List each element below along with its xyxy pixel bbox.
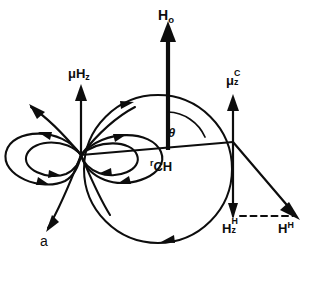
loop-arrow-right-outer-bottom (117, 176, 131, 184)
label-h0: Ho (158, 8, 174, 22)
label-mu-z-c-base: μ (226, 73, 234, 88)
label-mu-z-c-sub: z (234, 78, 238, 87)
label-h-z-h-sub: z (231, 226, 235, 235)
circle-arrow-bottom (161, 235, 175, 243)
loop-arrow-left-outer-top (38, 132, 52, 140)
label-mu-z-c: μCCz (226, 74, 240, 87)
label-mu-z-c-stack: CCz (234, 74, 240, 87)
label-mu-hz-sub: z (85, 72, 89, 82)
label-h0-sub: o (168, 14, 174, 25)
label-h-h-sup: H (287, 220, 293, 230)
label-r-ch-sub: CH (153, 159, 172, 174)
label-mu-hz-base: μH (68, 66, 85, 81)
label-h-z-h: HHHz (222, 222, 238, 235)
inner-loop-left-inner (26, 143, 81, 179)
label-h-h-base: H (278, 221, 287, 236)
inner-loop-left-outer (5, 132, 81, 185)
mu-z-c-vector (227, 94, 239, 216)
mu-z-c-arrowhead (227, 94, 239, 111)
label-theta: θ (168, 126, 175, 139)
label-mu-hz: μHz (68, 67, 90, 80)
label-h-z-h-base: H (222, 221, 231, 236)
h-h-vector (233, 142, 300, 220)
loop-arrow-right-outer-top (113, 134, 127, 142)
open-field-line-upper-left (29, 104, 81, 155)
label-h0-base: H (158, 7, 168, 23)
label-r-ch: rCH (150, 160, 172, 173)
loop-arrow-left-outer-bottom (36, 177, 50, 185)
panel-label: a (40, 234, 48, 248)
open-field-line-lower-left (46, 155, 81, 232)
h-h-arrowhead (280, 202, 300, 220)
open-field-arrow-lower-left (46, 215, 59, 232)
mu-hz-vector (75, 84, 87, 155)
mu-hz-arrowhead (75, 84, 87, 101)
label-h-h: HH (278, 222, 294, 235)
label-h-z-h-stack: HHz (231, 222, 237, 235)
figure-root: Ho μHz μCCz θ rCH HHHz HH a (0, 0, 318, 288)
